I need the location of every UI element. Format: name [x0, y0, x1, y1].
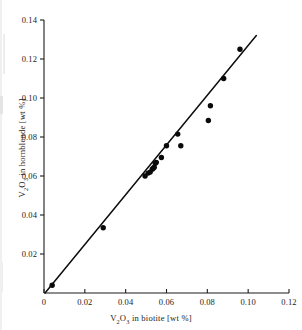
x-tick-label: 0.02: [65, 297, 105, 307]
y-tick-label: 0.02: [4, 249, 37, 259]
x-axis-ticks: [44, 289, 289, 293]
y-tick-label: 0.14: [4, 15, 37, 25]
x-axis-title: V2O3 in biotite [wt %]: [0, 313, 302, 325]
data-point: [208, 103, 213, 108]
x-tick-label: 0.08: [187, 297, 227, 307]
y-axis-title: V2O3 in hornblende [wt %]: [17, 63, 29, 233]
data-point: [237, 47, 242, 52]
y-axis-ticks: [40, 20, 44, 254]
data-point: [154, 160, 159, 165]
data-point: [178, 143, 183, 148]
x-tick-label: 0.12: [269, 297, 302, 307]
data-point: [175, 131, 180, 136]
data-point: [101, 225, 106, 230]
x-tick-label: 0.06: [147, 297, 187, 307]
scatter-plot-canvas: [0, 0, 302, 330]
x-tick-label: 0.04: [106, 297, 146, 307]
data-point: [221, 76, 226, 81]
x-tick-label: 0: [24, 297, 64, 307]
data-point: [49, 283, 54, 288]
x-axis-title-text: V2O3 in biotite [wt %]: [110, 313, 192, 323]
regression-line: [45, 36, 256, 293]
data-point: [164, 143, 169, 148]
y-axis-title-text: V2O3 in hornblende [wt %]: [17, 98, 27, 197]
axes: [44, 20, 289, 293]
x-tick-label: 0.10: [228, 297, 268, 307]
figure-container: 0.020.040.060.080.100.120.14 00.020.040.…: [0, 0, 302, 330]
data-point: [159, 155, 164, 160]
data-point: [206, 118, 211, 123]
